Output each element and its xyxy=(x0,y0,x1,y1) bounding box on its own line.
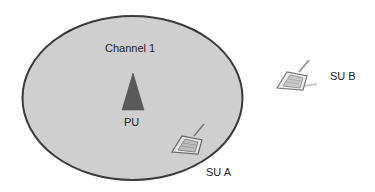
su-b-label: SU B xyxy=(330,70,356,82)
pu-label: PU xyxy=(124,116,139,128)
su-a-label: SU A xyxy=(206,166,231,178)
su-b-device-icon xyxy=(277,60,317,90)
diagram-canvas xyxy=(0,0,375,192)
channel-label: Channel 1 xyxy=(105,42,155,54)
